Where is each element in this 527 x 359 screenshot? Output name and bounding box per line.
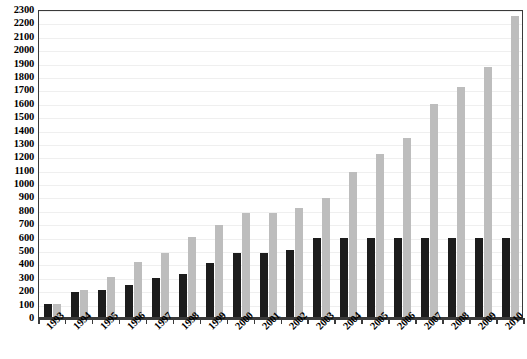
y-tick-label: 400 — [19, 259, 34, 269]
y-tick-label: 800 — [19, 206, 34, 216]
bar-group — [470, 11, 497, 317]
bar — [71, 292, 79, 317]
bar — [98, 290, 106, 317]
bar — [367, 238, 375, 317]
bar-group — [201, 11, 228, 317]
bar — [349, 172, 357, 317]
bar — [394, 238, 402, 317]
bar-group — [255, 11, 282, 317]
bar — [340, 238, 348, 317]
bar — [125, 285, 133, 317]
bar — [188, 237, 196, 317]
bar-group — [389, 11, 416, 317]
bars-layer — [39, 11, 522, 317]
bar — [448, 238, 456, 317]
bar — [260, 253, 268, 317]
bar — [403, 138, 411, 317]
y-tick-label: 300 — [19, 273, 34, 283]
y-tick-label: 2000 — [14, 45, 34, 55]
y-tick-label: 1300 — [14, 139, 34, 149]
bar — [430, 104, 438, 317]
bar — [511, 16, 519, 317]
bar — [161, 253, 169, 317]
y-tick-label: 1900 — [14, 59, 34, 69]
y-tick-label: 1400 — [14, 126, 34, 136]
bar — [206, 263, 214, 317]
y-axis: 0100200300400500600700800900100011001200… — [0, 0, 36, 330]
bar-group — [416, 11, 443, 317]
y-tick-label: 1000 — [14, 179, 34, 189]
plot-area — [38, 10, 523, 318]
y-tick-label: 1200 — [14, 152, 34, 162]
bar-group — [497, 11, 523, 317]
y-tick-label: 2200 — [14, 18, 34, 28]
bar-group — [120, 11, 147, 317]
bar-chart: 0100200300400500600700800900100011001200… — [0, 0, 527, 359]
y-tick-label: 600 — [19, 233, 34, 243]
y-tick-label: 500 — [19, 246, 34, 256]
bar-group — [39, 11, 66, 317]
bar-group — [443, 11, 470, 317]
bar — [421, 238, 429, 317]
bar — [179, 274, 187, 317]
y-tick-label: 700 — [19, 219, 34, 229]
y-tick-label: 1100 — [14, 166, 34, 176]
bar-group — [335, 11, 362, 317]
bar-group — [228, 11, 255, 317]
bar-group — [174, 11, 201, 317]
bar — [152, 278, 160, 318]
bar — [502, 238, 510, 317]
bar — [286, 250, 294, 317]
bar — [457, 87, 465, 317]
bar — [313, 238, 321, 317]
y-tick-label: 200 — [19, 286, 34, 296]
y-tick-label: 2300 — [14, 5, 34, 15]
bar — [233, 253, 241, 317]
bar — [44, 304, 52, 317]
bar — [295, 208, 303, 317]
y-tick-label: 1800 — [14, 72, 34, 82]
bar — [242, 213, 250, 317]
bar — [322, 198, 330, 317]
bar-group — [362, 11, 389, 317]
y-tick-label: 1500 — [14, 112, 34, 122]
y-tick-label: 2100 — [14, 32, 34, 42]
bar — [269, 213, 277, 317]
y-tick-label: 1700 — [14, 85, 34, 95]
bar-group — [66, 11, 93, 317]
bar — [475, 238, 483, 317]
x-axis: 1993199419951996199719981999200020012002… — [38, 324, 523, 359]
y-tick-label: 100 — [19, 300, 34, 310]
y-tick-label: 0 — [29, 313, 34, 323]
bar — [376, 154, 384, 317]
y-tick-label: 900 — [19, 192, 34, 202]
bar-group — [308, 11, 335, 317]
bar-group — [282, 11, 309, 317]
bar — [484, 67, 492, 317]
bar — [215, 225, 223, 317]
y-tick-label: 1600 — [14, 99, 34, 109]
bar — [134, 262, 142, 317]
bar-group — [147, 11, 174, 317]
bar-group — [93, 11, 120, 317]
